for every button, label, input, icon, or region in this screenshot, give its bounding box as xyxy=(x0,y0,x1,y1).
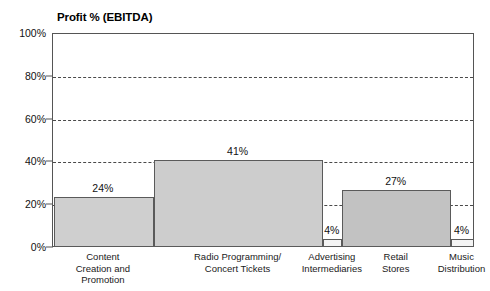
profit-ebitda-bar-chart: Profit % (EBITDA) 100%80%60%40%20%0% 24%… xyxy=(0,0,490,291)
bar-value-label: 27% xyxy=(385,175,406,187)
y-axis-tick-label: 60% xyxy=(0,113,46,125)
y-axis: 100%80%60%40%20%0% xyxy=(0,0,46,291)
plot-area xyxy=(52,33,474,247)
bar-segment xyxy=(54,197,154,247)
gridline xyxy=(53,77,473,78)
chart-title: Profit % (EBITDA) xyxy=(57,11,152,23)
bar-value-label: 4% xyxy=(454,224,469,236)
bar-value-label: 4% xyxy=(324,224,339,236)
y-axis-tick-label: 40% xyxy=(0,155,46,167)
x-axis-category-label: Music Distribution xyxy=(438,251,486,274)
y-axis-tick-label: 0% xyxy=(0,241,46,253)
bar-value-label: 24% xyxy=(92,182,113,194)
bar-segment xyxy=(323,239,342,247)
bar-value-label: 41% xyxy=(227,145,248,157)
bar-segment xyxy=(154,160,324,247)
y-axis-tick-label: 80% xyxy=(0,70,46,82)
x-axis-category-label: Advertising Intermediaries xyxy=(302,251,362,274)
bar-segment xyxy=(451,239,474,247)
bar-segment xyxy=(342,190,451,247)
y-axis-tick-label: 20% xyxy=(0,198,46,210)
x-axis-category-label: Retail Stores xyxy=(382,251,409,274)
x-axis-category-label: Content Creation and Promotion xyxy=(76,251,130,286)
gridline xyxy=(53,120,473,121)
x-axis-category-label: Radio Programming/ Concert Tickets xyxy=(194,251,281,274)
page-edge xyxy=(0,287,490,291)
y-axis-tick-label: 100% xyxy=(0,27,46,39)
